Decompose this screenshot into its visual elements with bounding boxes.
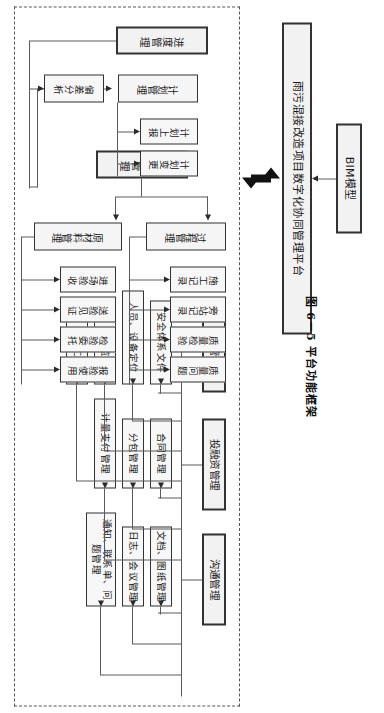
connector-entry-acceptance <box>22 279 54 280</box>
node-log-meeting-management: 日志、会议管理 <box>122 526 144 606</box>
arrowhead-plan-management <box>106 85 112 91</box>
node-label: BIM模型 <box>343 156 355 199</box>
connector-investment-stem <box>182 464 202 465</box>
node-label: 报验使用 <box>68 364 109 375</box>
connector-inspection-entrustment <box>22 339 54 340</box>
node-label: 偏差分析 <box>54 83 95 94</box>
node-label: 沟通管理 <box>208 559 220 600</box>
connector-construction-records <box>130 279 164 280</box>
connector-subcontract <box>133 528 182 529</box>
connector-measurement-payment <box>105 559 182 560</box>
node-label: 送验见证 <box>68 304 109 315</box>
connector-testing-witness <box>22 309 54 310</box>
connector-quality-trunk <box>141 178 142 196</box>
arrowhead-document-drawing <box>159 600 165 606</box>
double-arrow-platform-to-modules <box>240 168 282 188</box>
arrowhead-quality-to-material <box>114 214 120 220</box>
arrowhead-positioning <box>131 378 137 384</box>
figure-rotator: BIM模型 雨污混接改造项目数字化协同管理平台 沟通管理 文档、图纸管理 <box>0 0 384 713</box>
node-label: 文档、图纸管理 <box>156 530 167 601</box>
node-inspection-entrustment: 检验委托 <box>60 326 116 352</box>
arrowhead-onsite-records <box>164 306 170 312</box>
arrowhead-notice-issue <box>99 600 105 606</box>
arrowhead-contract <box>159 482 165 488</box>
connector-plan-children-bus <box>117 102 118 176</box>
node-label: 旁站记录 <box>178 304 219 315</box>
node-plan-reporting: 计划上报 <box>140 118 198 144</box>
node-process-management: 过程管理 <box>146 222 226 250</box>
node-document-drawing-management: 文档、图纸管理 <box>150 526 172 606</box>
node-label: 日志、会议管理 <box>128 530 139 601</box>
node-plan-management: 计划管理 <box>118 74 198 102</box>
node-label: 施工记录 <box>178 274 219 285</box>
node-entry-acceptance: 进场验收 <box>60 266 116 292</box>
node-label: 进度管理 <box>140 34 185 46</box>
connector-safety-docs-h <box>160 384 161 393</box>
node-measurement-payment-management: 计量支付管理 <box>94 398 116 488</box>
connector-quality-issues <box>130 369 164 370</box>
node-plan-change: 计划变更 <box>140 150 198 176</box>
connector-material-stem <box>22 236 34 237</box>
arrowhead-safety-docs <box>159 378 165 384</box>
connector-quality-to-process <box>207 196 208 216</box>
node-label: 质量问题 <box>178 364 219 375</box>
connector-quality-split <box>116 196 208 197</box>
connector-quality-inspection <box>130 339 164 340</box>
connector-video <box>105 450 182 451</box>
node-label: 进场验收 <box>68 274 109 285</box>
figure-caption: 图 6－5 平台功能框架 <box>305 295 321 418</box>
arrowhead-inspection-entrustment <box>54 336 60 342</box>
node-label: 原材料管理 <box>53 230 104 241</box>
connector-deviation-analysis-h <box>37 88 38 187</box>
arrowhead-plan-change <box>134 160 140 166</box>
node-label: 计划管理 <box>138 82 179 93</box>
node-subcontract-management: 分包管理 <box>122 418 144 488</box>
node-inspection-application-use: 报验使用 <box>60 356 116 382</box>
arrowhead-quality-issues <box>164 366 170 372</box>
arrowhead-quality-to-process <box>206 214 212 220</box>
connector-quality-to-material <box>115 196 116 216</box>
connector-communication-bus <box>181 579 182 696</box>
connector-notice-issue <box>101 674 182 675</box>
connector-safe-site-h <box>76 384 77 481</box>
connector-safe-site <box>77 480 182 481</box>
connector-log-meeting <box>133 643 182 644</box>
connector-schedule-stem <box>30 40 116 41</box>
arrowhead-construction-records <box>164 276 170 282</box>
arrowhead-subcontract <box>131 482 137 488</box>
connector-measurement-payment-h <box>104 488 105 560</box>
node-label: 合同管理 <box>156 433 167 474</box>
node-communication-management: 沟通管理 <box>202 533 226 625</box>
node-onsite-supervision-records: 旁站记录 <box>170 296 226 322</box>
node-label: 雨污混接改造项目数字化协同管理平台 <box>291 80 303 276</box>
arrowhead-measurement-payment <box>103 482 109 488</box>
node-deviation-analysis: 偏差分析 <box>44 74 104 102</box>
node-label: 过程管理 <box>166 230 207 241</box>
arrowhead-entry-acceptance <box>54 276 60 282</box>
connector-communication-stem <box>182 579 202 580</box>
connector-video-h <box>104 384 105 451</box>
arrowhead-deviation-analysis <box>38 85 44 91</box>
connector-document-drawing-h <box>160 606 161 614</box>
connector-contract-h <box>160 488 161 498</box>
arrowhead-bim-to-platform <box>312 175 318 181</box>
arrowhead-quality-inspection <box>164 336 170 342</box>
node-label: 计量支付管理 <box>100 412 111 473</box>
connector-plan-change <box>118 163 134 164</box>
arrowhead-plan-reporting <box>134 128 140 134</box>
connector-safety-docs <box>158 392 182 393</box>
node-investment-financing-management: 投融资管理 <box>202 418 226 510</box>
connector-contract <box>158 497 182 498</box>
connector-notice-issue-h <box>100 606 101 675</box>
connector-positioning <box>133 420 182 421</box>
arrowhead-log-meeting <box>131 600 137 606</box>
connector-log-meeting-h <box>132 606 133 644</box>
arrowhead-inspection-application <box>54 366 60 372</box>
arrowhead-testing-witness <box>54 306 60 312</box>
connector-document-drawing <box>158 612 182 613</box>
node-quality-inspection: 质量检验 <box>170 326 226 352</box>
connector-inspection-application <box>22 369 54 370</box>
node-bim-model: BIM模型 <box>336 123 362 233</box>
node-quality-issues: 质量问题 <box>170 356 226 382</box>
node-label: 检验委托 <box>68 334 109 345</box>
